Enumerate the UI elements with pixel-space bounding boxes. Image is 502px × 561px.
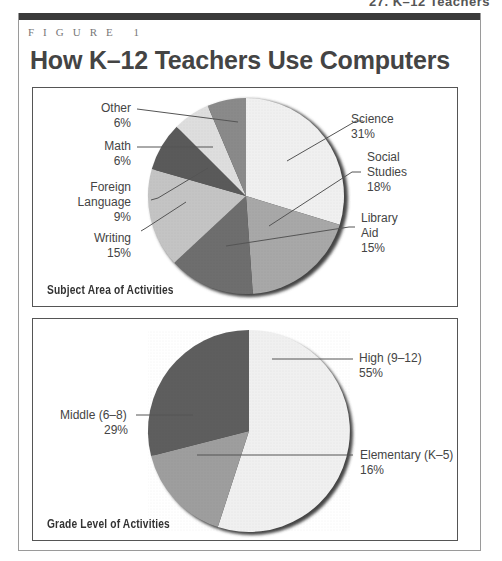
label-foreign-language: Foreign Language 9% (78, 180, 131, 225)
label-high-pct: 55% (359, 366, 422, 381)
label-social-name-2: Studies (367, 165, 407, 180)
label-science-pct: 31% (351, 127, 394, 142)
label-elementary-pct: 16% (360, 463, 453, 478)
label-library-pct: 15% (361, 241, 398, 256)
label-writing: Writing 15% (94, 231, 131, 261)
label-middle: Middle (6–8) 29% (60, 408, 128, 438)
running-head: 27. K–12 Teachers (369, 0, 490, 9)
label-middle-name: Middle (6–8) (60, 408, 128, 423)
label-math-pct: 6% (104, 154, 131, 169)
label-writing-pct: 15% (94, 246, 131, 261)
label-social-studies: Social Studies 18% (367, 150, 407, 195)
label-social-pct: 18% (367, 180, 407, 195)
label-other-name: Other (101, 101, 131, 116)
grade-level-panel: High (9–12) 55% Elementary (K–5) 16% Mid… (32, 318, 458, 541)
label-writing-name: Writing (94, 231, 131, 246)
texture-2 (148, 330, 350, 532)
label-foreign-pct: 9% (78, 210, 131, 225)
label-library-aid: Library Aid 15% (361, 211, 398, 256)
label-high: High (9–12) 55% (359, 351, 422, 381)
label-math: Math 6% (104, 139, 131, 169)
label-science: Science 31% (351, 112, 394, 142)
figure-title: How K–12 Teachers Use Computers (30, 46, 450, 75)
label-foreign-name-1: Foreign (78, 180, 131, 195)
label-middle-pct: 29% (60, 423, 128, 438)
subject-area-panel: Science 31% Social Studies 18% Library A… (32, 87, 458, 307)
label-library-name-2: Aid (361, 226, 398, 241)
label-elementary: Elementary (K–5) 16% (360, 448, 453, 478)
label-library-name-1: Library (361, 211, 398, 226)
label-science-name: Science (351, 112, 394, 127)
subject-area-caption: Subject Area of Activities (47, 283, 174, 297)
label-foreign-name-2: Language (78, 195, 131, 210)
label-elementary-name: Elementary (K–5) (360, 448, 453, 463)
grade-level-caption: Grade Level of Activities (47, 517, 170, 531)
label-math-name: Math (104, 139, 131, 154)
label-other-pct: 6% (101, 116, 131, 131)
label-high-name: High (9–12) (359, 351, 422, 366)
figure-label: FIGURE 1 (28, 26, 148, 38)
label-other: Other 6% (101, 101, 131, 131)
label-social-name-1: Social (367, 150, 407, 165)
